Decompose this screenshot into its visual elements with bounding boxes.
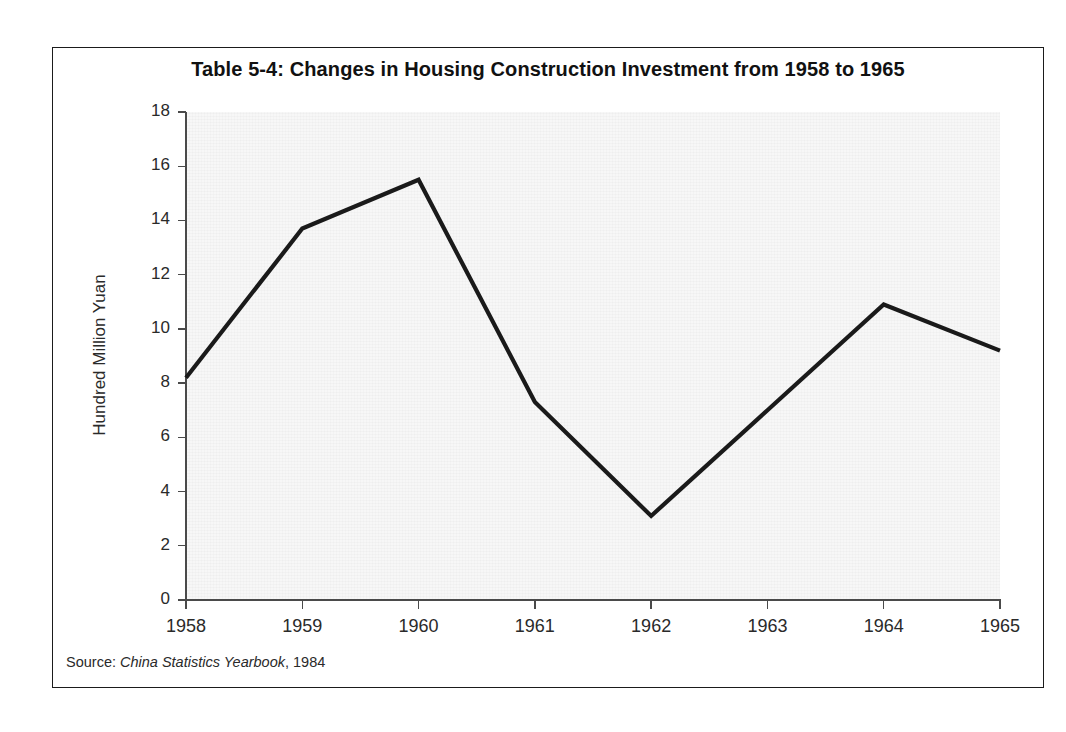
y-axis-tick-label: 10 [126, 318, 170, 338]
x-axis-tick-label: 1965 [960, 616, 1040, 637]
source-note: Source: China Statistics Yearbook, 1984 [66, 654, 325, 670]
x-axis-tick [767, 600, 768, 609]
x-axis-tick [999, 600, 1000, 609]
source-year: , 1984 [285, 654, 325, 670]
x-axis-tick-label: 1959 [262, 616, 342, 637]
y-axis-tick-label-wrap: 2 [120, 535, 170, 555]
y-axis-tick-label-wrap: 6 [120, 426, 170, 446]
y-axis-tick-label-wrap: 14 [120, 209, 170, 229]
source-prefix: Source: [66, 654, 120, 670]
chart-title: Table 5-4: Changes in Housing Constructi… [52, 58, 1044, 81]
x-axis-tick-label: 1963 [727, 616, 807, 637]
x-axis-tick-label: 1958 [146, 616, 226, 637]
y-axis-tick-label: 8 [126, 372, 170, 392]
y-axis-tick [178, 274, 186, 275]
y-axis-tick [178, 382, 186, 383]
x-axis-tick [185, 600, 186, 609]
x-axis-tick-label: 1960 [379, 616, 459, 637]
y-axis-tick-label: 4 [126, 481, 170, 501]
y-axis-tick [178, 491, 186, 492]
y-axis-title: Hundred Million Yuan [90, 225, 110, 485]
y-axis-tick-label-wrap: 16 [120, 155, 170, 175]
x-axis-tick [534, 600, 535, 609]
y-axis-tick [178, 545, 186, 546]
y-axis-tick [178, 111, 186, 112]
series-line-housing-investment [186, 180, 1000, 516]
source-publication: China Statistics Yearbook [120, 654, 285, 670]
y-axis-tick-label: 14 [126, 209, 170, 229]
y-axis-tick-label-wrap: 10 [120, 318, 170, 338]
y-axis-tick-label: 6 [126, 426, 170, 446]
x-axis-tick [883, 600, 884, 609]
y-axis-tick [178, 437, 186, 438]
y-axis-tick-label-wrap: 0 [120, 589, 170, 609]
x-axis-tick [302, 600, 303, 609]
y-axis-tick-label-wrap: 12 [120, 264, 170, 284]
y-axis-tick [178, 328, 186, 329]
y-axis-tick-label: 2 [126, 535, 170, 555]
y-axis-tick-label-wrap: 4 [120, 481, 170, 501]
y-axis-tick-label: 12 [126, 264, 170, 284]
figure-root: Table 5-4: Changes in Housing Constructi… [0, 0, 1066, 732]
x-axis-tick-label: 1961 [495, 616, 575, 637]
y-axis-tick-label: 18 [126, 101, 170, 121]
x-axis-tick [418, 600, 419, 609]
series-line-chart [186, 112, 1000, 600]
y-axis-tick-label: 16 [126, 155, 170, 175]
y-axis-tick [178, 220, 186, 221]
y-axis-tick-label: 0 [126, 589, 170, 609]
y-axis-tick-label-wrap: 18 [120, 101, 170, 121]
y-axis-tick [178, 166, 186, 167]
x-axis-tick [650, 600, 651, 609]
x-axis-tick-label: 1964 [844, 616, 924, 637]
y-axis-tick-label-wrap: 8 [120, 372, 170, 392]
x-axis-tick-label: 1962 [611, 616, 691, 637]
